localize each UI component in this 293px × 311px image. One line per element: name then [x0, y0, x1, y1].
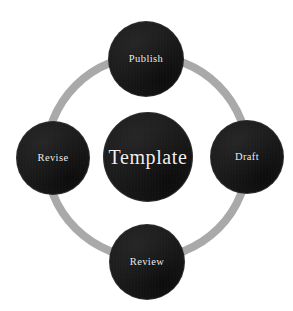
- cycle-node-publish[interactable]: Publish: [109, 22, 183, 96]
- cycle-node-draft[interactable]: Draft: [211, 121, 283, 193]
- cycle-node-center[interactable]: Template: [104, 113, 192, 201]
- cycle-node-review-label: Review: [130, 257, 164, 268]
- cycle-diagram: Publish Draft Review Revise Template: [0, 0, 293, 311]
- cycle-node-publish-label: Publish: [129, 54, 163, 65]
- cycle-node-center-label: Template: [109, 147, 188, 167]
- cycle-node-review[interactable]: Review: [110, 225, 184, 299]
- cycle-node-draft-label: Draft: [235, 152, 259, 163]
- cycle-node-revise-label: Revise: [38, 153, 69, 164]
- cycle-node-revise[interactable]: Revise: [17, 122, 89, 194]
